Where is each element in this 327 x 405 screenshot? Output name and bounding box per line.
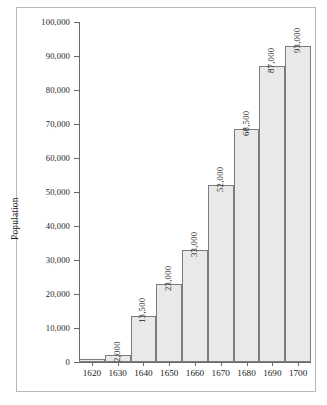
y-axis-line — [79, 22, 80, 363]
y-tick-mark — [74, 90, 79, 91]
y-tick-label: 70,000 — [0, 119, 70, 129]
y-tick-mark — [74, 124, 79, 125]
x-tick-mark — [247, 362, 248, 366]
y-axis-title: Population — [10, 197, 20, 240]
x-tick-mark — [195, 362, 196, 366]
y-tick-mark — [74, 158, 79, 159]
y-tick-mark — [74, 192, 79, 193]
x-tick-mark — [169, 362, 170, 366]
x-tick-mark — [118, 362, 119, 366]
y-tick-label: 20,000 — [0, 289, 70, 299]
y-tick-label: 100,000 — [0, 17, 70, 27]
bar-value-label: 87,000 — [266, 48, 276, 73]
y-tick-label: 30,000 — [0, 255, 70, 265]
y-tick-mark — [74, 56, 79, 57]
x-tick-mark — [298, 362, 299, 366]
bar — [156, 284, 182, 362]
y-tick-label: 80,000 — [0, 85, 70, 95]
bar — [285, 46, 311, 362]
bar-value-label: 2,000 — [112, 341, 122, 362]
y-tick-mark — [74, 226, 79, 227]
bar — [208, 185, 234, 362]
x-tick-mark — [143, 362, 144, 366]
bar-value-label: 68,500 — [241, 111, 251, 136]
y-tick-label: 90,000 — [0, 51, 70, 61]
y-tick-mark — [74, 260, 79, 261]
y-tick-label: 40,000 — [0, 221, 70, 231]
y-tick-mark — [74, 294, 79, 295]
chart-figure: Population 010,00020,00030,00040,00050,0… — [0, 0, 327, 405]
y-tick-mark — [74, 362, 79, 363]
x-tick-label: 1700 — [281, 368, 315, 378]
y-tick-label: 50,000 — [0, 187, 70, 197]
y-tick-label: 60,000 — [0, 153, 70, 163]
y-tick-label: 0 — [0, 357, 70, 367]
x-tick-mark — [272, 362, 273, 366]
bar-value-label: 33,000 — [189, 231, 199, 256]
bar — [259, 66, 285, 362]
y-tick-label: 10,000 — [0, 323, 70, 333]
x-tick-mark — [221, 362, 222, 366]
x-tick-mark — [92, 362, 93, 366]
bar-value-label: 93,000 — [292, 27, 302, 52]
bar-value-label: 23,000 — [163, 265, 173, 290]
y-tick-mark — [74, 328, 79, 329]
bar — [234, 129, 260, 362]
bar — [182, 250, 208, 362]
bar-value-label: 52,000 — [215, 167, 225, 192]
y-tick-mark — [74, 22, 79, 23]
bar-value-label: 13,500 — [137, 298, 147, 323]
